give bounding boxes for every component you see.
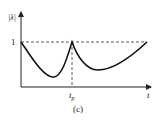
figure-caption: (c) xyxy=(73,104,83,114)
y-axis-label: |λ| xyxy=(8,13,16,22)
figure-canvas: |λ| 1 tp t (c) xyxy=(0,0,161,123)
tp-label-sub: p xyxy=(71,95,75,101)
y-tick-1: 1 xyxy=(11,37,16,47)
x-axis-label: t xyxy=(147,90,150,100)
tp-label: tp xyxy=(69,90,75,101)
magnitude-curve xyxy=(21,42,147,77)
